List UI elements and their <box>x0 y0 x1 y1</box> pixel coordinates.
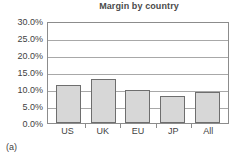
chart-title: Margin by country <box>46 1 232 11</box>
x-axis-tick-label: JP <box>156 126 191 140</box>
y-axis-tick-label: 0.0% <box>0 119 43 129</box>
bar-all <box>195 92 220 123</box>
y-axis-tick-label: 5.0% <box>0 102 43 112</box>
x-axis-tick-label: All <box>191 126 226 140</box>
figure-panel: Margin by country 30.0%25.0%20.0%15.0%10… <box>0 0 235 161</box>
bar-slot <box>86 23 121 123</box>
y-axis-tick-label: 20.0% <box>0 51 43 61</box>
x-axis-tick-label: UK <box>85 126 120 140</box>
bar-eu <box>125 90 150 123</box>
bar-series <box>48 23 228 123</box>
x-axis-tick-labels: USUKEUJPAll <box>47 126 229 140</box>
y-axis-tick-label: 10.0% <box>0 85 43 95</box>
bar-slot <box>51 23 86 123</box>
x-axis-tick-label: EU <box>120 126 155 140</box>
plot-area <box>47 22 229 124</box>
y-axis-tick-label: 15.0% <box>0 68 43 78</box>
bar-slot <box>155 23 190 123</box>
x-axis-tick-label: US <box>50 126 85 140</box>
bar-us <box>56 85 81 123</box>
y-axis-tick-label: 25.0% <box>0 34 43 44</box>
bar-jp <box>160 96 185 123</box>
bar-uk <box>91 79 116 123</box>
y-axis-tick-label: 30.0% <box>0 17 43 27</box>
bar-slot <box>190 23 225 123</box>
bar-slot <box>121 23 156 123</box>
figure-caption: (a) <box>6 142 17 152</box>
